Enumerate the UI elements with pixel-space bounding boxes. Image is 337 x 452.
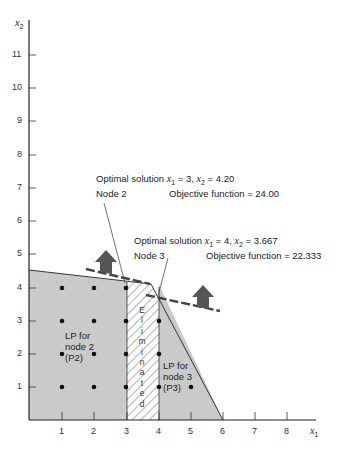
x-tick: 8 — [284, 426, 289, 436]
y-axis-label: x2 — [15, 17, 23, 32]
arrow-up-icon — [95, 250, 117, 274]
y-tick: 3 — [17, 315, 22, 325]
region-p3-label: LP fornode 3(P3) — [163, 360, 192, 393]
x-tick: 7 — [252, 426, 257, 436]
node3-annotation: Optimal solution x1 = 4, x2 = 3.667 Node… — [134, 235, 278, 261]
x-tick: 6 — [220, 426, 225, 436]
y-tick: 4 — [17, 282, 22, 292]
x-tick: 3 — [124, 426, 129, 436]
y-tick: 9 — [17, 115, 22, 125]
y-tick: 5 — [17, 248, 22, 258]
y-tick: 2 — [17, 348, 22, 358]
region-p2-label: LP fornode 2(P2) — [65, 330, 94, 363]
y-tick: 8 — [17, 149, 22, 159]
region-p3 — [159, 285, 223, 420]
y-tick: 7 — [17, 182, 22, 192]
x-axis-label: x1 — [310, 425, 318, 440]
eliminated-label: El im in at ed — [136, 305, 148, 409]
x-tick: 5 — [188, 426, 193, 436]
y-tick: 10 — [12, 82, 22, 92]
y-tick: 11 — [12, 49, 21, 59]
y-tick: 1 — [17, 381, 22, 391]
y-tick: 6 — [17, 215, 22, 225]
x-tick: 2 — [91, 426, 96, 436]
x-tick: 1 — [59, 426, 64, 436]
node2-annotation: Optimal solution x1 = 3, x2 = 4.20 Node … — [96, 173, 234, 199]
x-tick: 4 — [156, 426, 161, 436]
